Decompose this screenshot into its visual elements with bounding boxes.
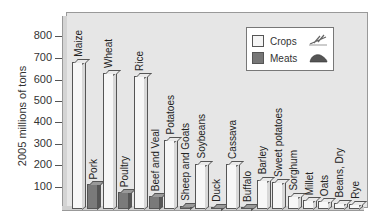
legend-item-meats: Meats xyxy=(252,51,297,65)
bar-sorghum: Sorghum xyxy=(288,196,299,209)
bar-barley: Barley xyxy=(257,180,268,209)
bar-duck: Duck xyxy=(211,207,222,209)
bar-category-label: Buffalo xyxy=(241,171,252,202)
legend: Crops Meats xyxy=(246,27,334,71)
steak-icon xyxy=(308,52,328,64)
y-tick-label: 200 xyxy=(26,158,52,170)
bar-category-label: Cassava xyxy=(226,120,237,159)
legend-label: Meats xyxy=(270,53,297,64)
bar-side-face xyxy=(97,183,101,210)
bar-category-label: Pork xyxy=(87,159,98,180)
bar-category-label: Poultry xyxy=(118,156,129,187)
bar-category-label: Sweet potatoes xyxy=(272,108,283,177)
bar-side-face xyxy=(82,61,86,210)
bar-side-face xyxy=(128,190,132,210)
y-tick-label: 600 xyxy=(26,73,52,85)
bar-wheat: Wheat xyxy=(103,73,114,209)
y-tick-label: 400 xyxy=(26,115,52,127)
bar-category-label: Wheat xyxy=(103,39,114,68)
legend-label: Crops xyxy=(270,36,297,47)
bar-oats: Oats xyxy=(318,201,329,209)
bar-category-label: Beef and Veal xyxy=(149,129,160,191)
bar-beef-and-veal: Beef and Veal xyxy=(149,196,160,209)
bar-maize: Maize xyxy=(72,62,83,209)
y-tick-label: 100 xyxy=(26,180,52,192)
bar-poultry: Poultry xyxy=(118,192,129,209)
bar-category-label: Potatoes xyxy=(164,95,175,134)
bar-side-face xyxy=(236,162,240,210)
y-tick-label: 800 xyxy=(26,29,52,41)
bar-sweet-potatoes: Sweet potatoes xyxy=(272,182,283,209)
crops-swatch xyxy=(252,35,264,47)
bar-category-label: Rye xyxy=(349,181,360,199)
plot-area-left-wall xyxy=(62,16,67,210)
bar-category-label: Maize xyxy=(72,30,83,57)
bar-buffalo: Buffalo xyxy=(241,207,252,209)
bar-side-face xyxy=(174,139,178,210)
bar-category-label: Millet xyxy=(303,172,314,195)
bar-side-face xyxy=(113,72,117,210)
bar-category-label: Beans, Dry xyxy=(334,148,345,197)
bar-category-label: Barley xyxy=(257,146,268,174)
bar-rice: Rice xyxy=(134,76,145,209)
bar-side-face xyxy=(282,181,286,210)
bar-side-face xyxy=(267,178,271,210)
bar-cassava: Cassava xyxy=(226,164,237,209)
bar-beans-dry: Beans, Dry xyxy=(334,203,345,209)
wheat-icon xyxy=(308,34,328,46)
bar-potatoes: Potatoes xyxy=(164,140,175,209)
bar-rye: Rye xyxy=(349,204,360,209)
bar-category-label: Oats xyxy=(318,175,329,196)
bar-pork: Pork xyxy=(87,184,98,209)
bar-side-face xyxy=(205,162,209,210)
bar-category-label: Duck xyxy=(211,179,222,202)
bar-side-face xyxy=(144,75,148,210)
bar-category-label: Rice xyxy=(134,51,145,71)
bar-category-label: Sheep and Goats xyxy=(180,123,191,201)
bar-millet: Millet xyxy=(303,200,314,209)
meats-swatch xyxy=(252,52,264,64)
y-tick-label: 700 xyxy=(26,51,52,63)
bar-category-label: Sorghum xyxy=(288,150,299,191)
legend-item-crops: Crops xyxy=(252,34,297,48)
bar-soybeans: Soybeans xyxy=(195,164,206,209)
y-tick-label: 300 xyxy=(26,137,52,149)
y-tick-label: 500 xyxy=(26,94,52,106)
bar-category-label: Soybeans xyxy=(195,114,206,158)
bar-sheep-and-goats: Sheep and Goats xyxy=(180,206,191,209)
